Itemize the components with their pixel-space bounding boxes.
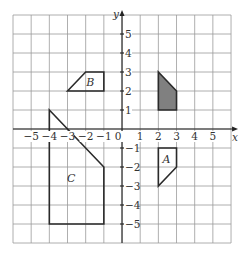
y-tick-label: −4 [125,199,141,211]
y-tick-label: 5 [125,28,132,40]
shape-label-a: A [162,153,171,166]
y-tick-label: −2 [125,161,140,173]
x-tick-label: −5 [23,130,38,142]
tick-labels: −5−4−3−2−101234554321−1−2−3−4−5xy [23,8,238,230]
x-tick-label: −3 [60,130,75,142]
x-tick-label: −4 [42,130,58,142]
coordinate-plane: −5−4−3−2−101234554321−1−2−3−4−5xy ABC [0,0,243,261]
y-tick-label: −1 [125,142,140,154]
x-tick-label: 1 [137,130,144,142]
y-tick-label: 2 [125,85,132,97]
y-tick-label: −5 [125,218,140,230]
shape-shaded [158,72,176,110]
x-tick-label: 5 [210,130,217,142]
x-tick-label: −1 [96,130,111,142]
shape-label-c: C [67,172,76,185]
y-axis-arrow-icon [120,10,125,16]
x-tick-label: 3 [173,130,180,142]
y-axis-label: y [112,8,120,20]
x-tick-label: 4 [191,130,198,142]
y-tick-label: 1 [125,104,132,116]
x-tick-label: −2 [78,130,93,142]
y-tick-label: 3 [125,66,132,78]
y-tick-label: 4 [125,47,132,59]
x-axis-label: x [232,131,238,143]
coordinate-grid-diagram: −5−4−3−2−101234554321−1−2−3−4−5xy ABC [0,0,243,261]
x-tick-label: 0 [115,130,122,142]
y-tick-label: −3 [125,180,140,192]
shape-label-b: B [85,76,94,89]
x-tick-label: 2 [155,130,162,142]
